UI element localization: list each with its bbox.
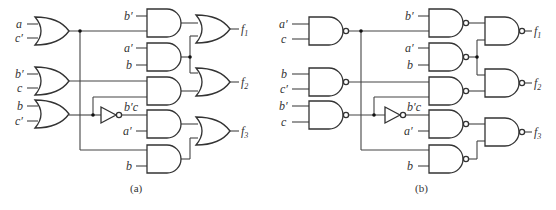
inverter-gate-b — [385, 107, 406, 123]
junction-dot — [91, 113, 95, 117]
panel-b: a′ c b c′ b′ c b′ a′ b b′c a′ b f1 f2 f3… — [279, 9, 541, 195]
input-label: c′ — [15, 114, 23, 128]
or-gate-2 — [35, 67, 69, 95]
junction-dot — [475, 55, 479, 59]
junction-dot — [359, 29, 363, 33]
input-label: c — [281, 32, 287, 46]
input-label: c′ — [15, 31, 23, 45]
nand-gate-1 — [309, 17, 349, 45]
input-label: b′ — [405, 9, 414, 23]
input-label: b — [126, 58, 132, 72]
inverter-gate-a — [101, 107, 122, 123]
junction-dot — [78, 29, 82, 33]
nand-gate-3 — [309, 101, 349, 129]
nand-gate-f3 — [485, 118, 525, 146]
and-gate-2 — [147, 43, 181, 71]
and-gate-4 — [147, 110, 181, 138]
inverter-label: b′c — [407, 100, 422, 114]
nand-gate-2 — [309, 68, 349, 96]
nand-gate-8 — [429, 145, 469, 173]
nand-gate-6 — [429, 77, 469, 105]
or-gate-f3 — [196, 117, 230, 145]
input-label: a′ — [404, 124, 413, 138]
output-label-f1: f1 — [241, 22, 248, 38]
input-label: a′ — [124, 41, 133, 55]
input-label: c — [17, 81, 23, 95]
output-label-f3: f3 — [534, 125, 541, 141]
nand-gate-7 — [429, 110, 469, 138]
input-wires-a — [27, 24, 38, 121]
logic-circuit-figure: a c′ b′ c b c′ b′ a′ b b′c a′ b f1 f2 f3… — [0, 0, 556, 210]
nand-gate-5 — [429, 43, 469, 71]
input-label: b — [126, 159, 132, 173]
and-gate-5 — [147, 145, 181, 173]
junction-dot — [188, 55, 192, 59]
input-label: b — [17, 99, 23, 113]
input-label: a′ — [405, 41, 414, 55]
input-label: a′ — [123, 124, 132, 138]
junction-dot — [372, 113, 376, 117]
caption-b: (b) — [415, 182, 428, 195]
inverter-label: b′c — [124, 100, 139, 114]
or-gate-3 — [35, 100, 69, 128]
or-gate-f1 — [196, 15, 230, 43]
input-label: b — [281, 67, 287, 81]
output-label-f3: f3 — [241, 124, 248, 140]
and-gate-1 — [147, 9, 181, 37]
nand-gate-f2 — [485, 69, 525, 97]
or-gate-1 — [35, 17, 69, 45]
input-label: b′ — [279, 99, 288, 113]
input-wires-b — [292, 24, 310, 122]
input-label: a — [16, 17, 22, 31]
output-label-f1: f1 — [534, 24, 541, 40]
input-label: a′ — [279, 17, 288, 31]
input-label: b — [407, 58, 413, 72]
and-gate-3 — [147, 77, 181, 105]
input-label: b — [407, 159, 413, 173]
caption-a: (a) — [130, 182, 143, 195]
nand-gate-4 — [429, 9, 469, 37]
input-label: b′ — [124, 9, 133, 23]
input-label: c′ — [280, 82, 288, 96]
output-label-f2: f2 — [241, 75, 248, 91]
input-label: b′ — [15, 67, 24, 81]
panel-a: a c′ b′ c b c′ b′ a′ b b′c a′ b f1 f2 f3… — [15, 9, 248, 195]
output-label-f2: f2 — [534, 76, 541, 92]
or-gate-f2 — [196, 68, 230, 96]
nand-gate-f1 — [485, 17, 525, 45]
input-label: c — [281, 115, 287, 129]
